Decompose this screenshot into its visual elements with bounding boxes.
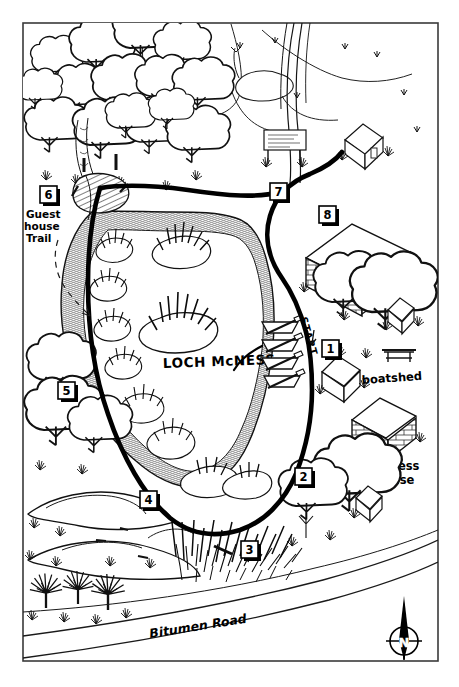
marker-6[interactable]: 6 <box>40 186 60 206</box>
marker-7-label: 7 <box>274 185 282 199</box>
marker-3[interactable]: 3 <box>241 541 261 561</box>
compass-north-label: N <box>399 635 410 650</box>
marker-8[interactable]: 8 <box>319 206 339 226</box>
marker-1-label: 1 <box>326 342 334 356</box>
marker-1[interactable]: 1 <box>322 340 342 360</box>
marker-4-label: 4 <box>144 493 152 507</box>
marker-5-label: 5 <box>62 384 70 398</box>
map-canvas: LOCH McNESS <box>0 0 459 687</box>
marker-5[interactable]: 5 <box>58 382 78 402</box>
marker-2-label: 2 <box>299 470 307 484</box>
marker-6-label: 6 <box>44 188 52 202</box>
marker-8-label: 8 <box>323 208 331 222</box>
marker-4[interactable]: 4 <box>140 491 160 511</box>
marker-3-label: 3 <box>245 543 253 557</box>
marker-2[interactable]: 2 <box>295 468 315 488</box>
marker-7[interactable]: 7 <box>270 183 290 203</box>
hand-drawn-map: LOCH McNESS <box>0 0 459 687</box>
